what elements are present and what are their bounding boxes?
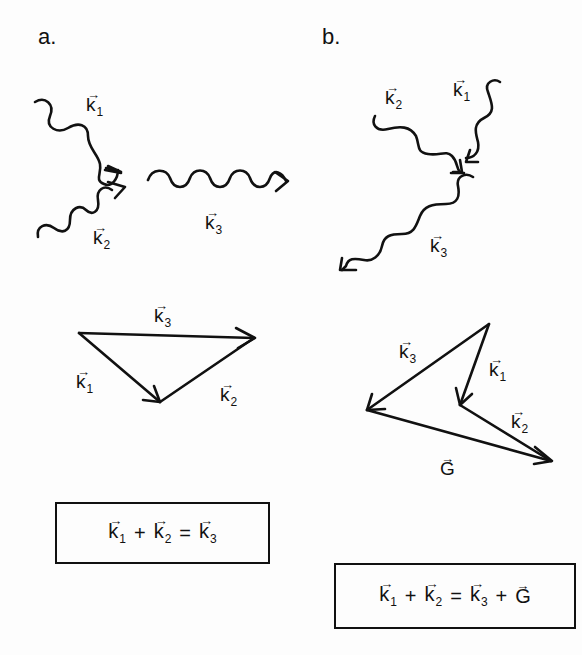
label-b-wave-k1: →k1 xyxy=(453,80,470,103)
equation-box-b: →k1 + →k2 = →k3 + →G xyxy=(334,563,576,629)
vector-b-k3 xyxy=(367,324,489,410)
eq-b-k2: →k2 xyxy=(425,583,443,609)
label-a-wave-k2: →k2 xyxy=(93,228,110,251)
wave-a-k1 xyxy=(35,100,118,185)
wave-b-k3 xyxy=(342,175,473,270)
equation-box-a: →k1 + →k2 = →k3 xyxy=(55,502,270,564)
label-a-tri-k2: →k2 xyxy=(220,385,237,408)
label-b-wave-k3: →k3 xyxy=(430,236,447,259)
wave-b-k2 xyxy=(374,116,460,172)
eq-a-equals: = xyxy=(179,522,191,545)
label-b-tri-k1: →k1 xyxy=(489,360,506,383)
label-b-tri-k3: →k3 xyxy=(399,342,416,365)
label-a-wave-k1: →k1 xyxy=(86,95,103,118)
vector-a-k3 xyxy=(79,333,254,338)
eq-a-k1: →k1 xyxy=(108,520,126,546)
wave-a-k3 xyxy=(148,171,286,188)
eq-b-G: →G xyxy=(515,585,531,608)
wave-b-k1 xyxy=(466,80,500,158)
eq-a-k2: →k2 xyxy=(154,520,172,546)
label-a-tri-k3: →k3 xyxy=(154,306,171,329)
eq-b-k1: →k1 xyxy=(379,583,397,609)
label-b-wave-k2: →k2 xyxy=(385,88,402,111)
eq-b-plus-2: + xyxy=(496,585,508,608)
vector-b-k2 xyxy=(460,405,551,461)
panel-a-label: a. xyxy=(38,26,56,48)
vector-b-k1 xyxy=(460,324,489,405)
eq-b-k3: →k3 xyxy=(470,583,488,609)
eq-b-plus-1: + xyxy=(405,585,417,608)
vector-a-k2 xyxy=(160,338,254,402)
eq-b-equals: = xyxy=(450,585,462,608)
label-b-tri-k2: →k2 xyxy=(511,412,528,435)
label-a-tri-k1: →k1 xyxy=(76,372,93,395)
label-a-wave-k3: →k3 xyxy=(205,213,222,236)
eq-a-k3: →k3 xyxy=(199,520,217,546)
phonon-scattering-diagram: a. b. →k1 →k2 →k3 →k2 →k1 →k3 →k3 →k1 →k… xyxy=(0,0,582,655)
eq-a-plus: + xyxy=(134,522,146,545)
label-b-tri-G: →G xyxy=(440,459,455,478)
panel-b-label: b. xyxy=(322,26,340,48)
